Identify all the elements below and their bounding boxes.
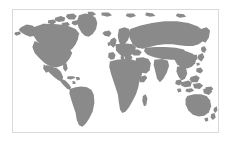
map-frame	[12, 9, 219, 133]
world-map-figure	[0, 0, 232, 144]
world-map-canvas	[13, 10, 218, 132]
